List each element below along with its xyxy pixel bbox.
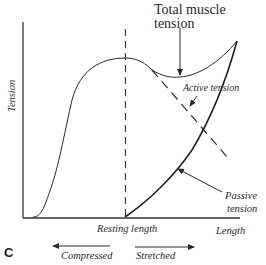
stretched-label: Stretched: [136, 251, 175, 262]
panel-letter: C: [4, 245, 13, 260]
x-axis-label: Length: [216, 226, 245, 237]
passive-tension-label-line1: Passive: [225, 191, 257, 202]
y-axis-label: Tension: [6, 80, 17, 112]
total-tension-label-line2: tension: [154, 17, 194, 31]
length-tension-diagram: Total muscle tension Active tension Tens…: [0, 0, 266, 265]
active-tension-arrow: [190, 96, 197, 106]
active-tension-label: Active tension: [183, 83, 239, 93]
total-tension-curve: [152, 41, 237, 77]
total-tension-label-line1: Total muscle: [154, 3, 226, 17]
compressed-label: Compressed: [61, 251, 113, 262]
resting-length-label: Resting length: [97, 224, 157, 235]
active-tension-curve: [33, 58, 152, 217]
passive-tension-arrow: [178, 169, 222, 192]
passive-tension-label-line2: tension: [227, 204, 257, 215]
